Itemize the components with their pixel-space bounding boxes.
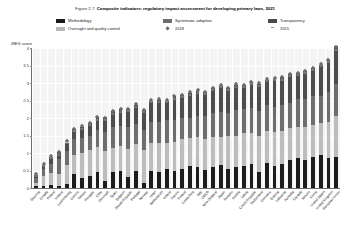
diamond-marker-icon — [163, 26, 172, 31]
bar-segment — [119, 171, 123, 188]
bar-segment — [219, 86, 223, 112]
bar-segment — [173, 171, 177, 189]
marker-2015 — [257, 85, 260, 86]
stacked-bar — [327, 60, 331, 188]
marker-2015 — [219, 87, 222, 88]
stacked-bar — [311, 68, 315, 188]
marker-2015 — [273, 80, 276, 81]
bar-segment — [134, 124, 138, 144]
bar-segment — [288, 160, 292, 188]
chart-legend: Methodology Oversight and quality contro… — [56, 17, 340, 32]
bar-segment — [257, 84, 261, 111]
bar-segment — [180, 169, 184, 188]
stacked-bar — [250, 82, 254, 188]
marker-2015 — [180, 97, 183, 98]
stacked-bar — [196, 91, 200, 188]
bar-segment — [226, 136, 230, 169]
bar-segment — [250, 164, 254, 188]
stacked-bar — [49, 157, 53, 188]
bar-segment — [226, 113, 230, 136]
bar-segment — [250, 82, 254, 108]
y-axis-tick-label: 4 — [18, 46, 29, 51]
bar-segment — [126, 149, 130, 177]
stacked-bar — [149, 101, 153, 188]
bar-segment — [157, 122, 161, 143]
marker-2015 — [88, 125, 91, 126]
marker-2015 — [50, 158, 53, 159]
bar-segment — [65, 165, 69, 184]
legend-item-oversight: Oversight and quality control — [56, 25, 120, 32]
bar-segment — [65, 151, 69, 164]
bar-segment — [211, 167, 215, 188]
marker-2015 — [134, 106, 137, 107]
bar-segment — [234, 136, 238, 168]
bar-segment — [226, 88, 230, 113]
bar-segment — [203, 116, 207, 139]
bar-segment — [149, 122, 153, 144]
stacked-bar — [72, 129, 76, 188]
bar-segment — [103, 132, 107, 151]
stacked-bar — [188, 93, 192, 188]
legend-swatch-icon — [56, 27, 65, 31]
y-axis-line — [31, 48, 32, 189]
marker-2015 — [34, 175, 37, 176]
bar-segment — [72, 139, 76, 155]
bar-segment — [88, 136, 92, 150]
marker-2015 — [296, 75, 299, 76]
bar-segment — [265, 131, 269, 163]
bar-segment — [42, 176, 46, 187]
stacked-bar — [173, 96, 177, 188]
bar-segment — [242, 166, 246, 188]
bar-segment — [219, 137, 223, 166]
marker-2015 — [265, 81, 268, 82]
figure-title: Figure 2.7. Composite indicators: regula… — [0, 6, 350, 12]
stacked-bar — [88, 123, 92, 188]
bar-segment — [165, 120, 169, 143]
marker-2015 — [173, 98, 176, 99]
bar-segment — [273, 132, 277, 166]
bar-segment — [119, 126, 123, 146]
bar-segment — [257, 136, 261, 173]
bar-segment — [242, 133, 246, 166]
bar-segment — [280, 77, 284, 104]
bar-segment — [157, 172, 161, 188]
x-axis-line — [31, 188, 340, 189]
bar-segment — [280, 131, 284, 164]
bar-segment — [188, 93, 192, 118]
bar-segment — [303, 127, 307, 160]
stacked-bar — [65, 143, 69, 188]
legend-item-transparency: Transparency — [268, 17, 305, 24]
bar-segment — [203, 139, 207, 170]
bar-segment — [226, 169, 230, 188]
bar-segment — [250, 108, 254, 133]
legend-item-2018: 2018 — [163, 25, 212, 32]
bar-segment — [288, 128, 292, 160]
x-axis-labels: SloveniaCroatiaPolandIcelandLuxembourgGr… — [0, 190, 350, 231]
marker-2015 — [304, 73, 307, 74]
bar-segment — [327, 122, 331, 159]
bar-segment — [280, 105, 284, 131]
bar-segment — [165, 143, 169, 169]
stacked-bar — [211, 88, 215, 188]
stacked-bar — [219, 86, 223, 188]
stacked-bar — [134, 105, 138, 188]
bar-segment — [126, 127, 130, 149]
bar-segment — [334, 157, 338, 189]
marker-2015 — [250, 83, 253, 84]
stacked-bar — [111, 111, 115, 188]
bar-segment — [273, 79, 277, 107]
bar-segment — [180, 118, 184, 139]
legend-label: 2018 — [175, 26, 184, 31]
bar-segment — [173, 120, 177, 142]
bar-segment — [142, 110, 146, 130]
bar-segment — [219, 112, 223, 137]
bar-segment — [80, 138, 84, 153]
bar-segment — [142, 150, 146, 183]
bar-segment — [265, 105, 269, 131]
gridline-vertical — [340, 48, 341, 188]
marker-2015 — [227, 90, 230, 91]
stacked-bar — [273, 79, 277, 188]
legend-swatch-icon — [268, 19, 277, 23]
marker-2015 — [196, 92, 199, 93]
bar-segment — [57, 159, 61, 174]
